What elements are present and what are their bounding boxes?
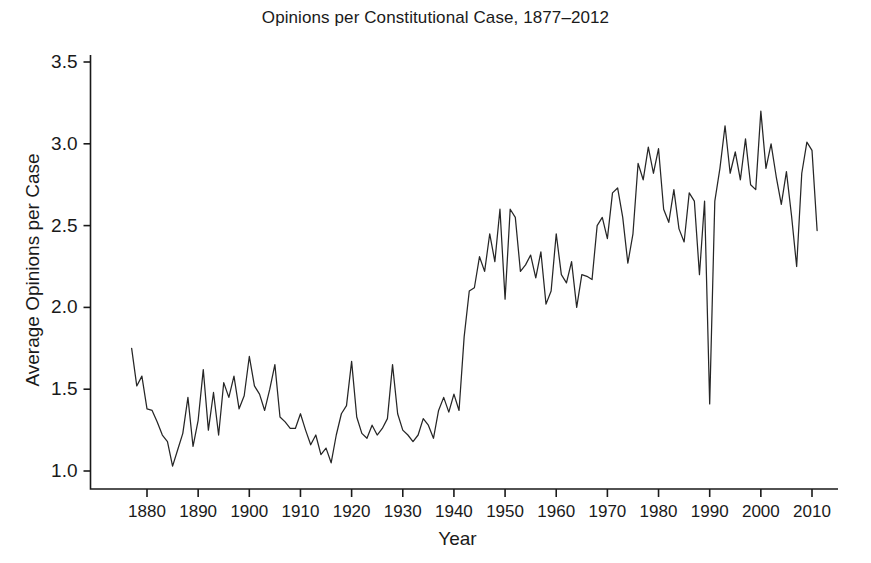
x-tick-label: 2000 <box>742 502 780 521</box>
y-tick-label: 2.0 <box>51 296 77 317</box>
x-tick-label: 1890 <box>179 502 217 521</box>
y-tick-label: 2.5 <box>51 215 77 236</box>
y-tick-label: 3.5 <box>51 51 77 72</box>
x-tick-label: 2010 <box>793 502 831 521</box>
x-tick-label: 1980 <box>640 502 678 521</box>
chart-figure: Opinions per Constitutional Case, 1877–2… <box>0 0 871 563</box>
x-tick-label: 1920 <box>333 502 371 521</box>
x-tick-label: 1880 <box>128 502 166 521</box>
x-tick-label: 1900 <box>230 502 268 521</box>
x-tick-label: 1940 <box>435 502 473 521</box>
x-tick-label: 1930 <box>384 502 422 521</box>
y-tick-label: 1.5 <box>51 378 77 399</box>
y-axis-ticks: 1.01.52.02.53.03.5 <box>51 51 90 481</box>
y-tick-label: 1.0 <box>51 460 77 481</box>
x-tick-label: 1970 <box>588 502 626 521</box>
x-tick-label: 1910 <box>282 502 320 521</box>
x-tick-label: 1960 <box>537 502 575 521</box>
data-series-group <box>132 111 817 466</box>
data-series-line <box>132 111 817 466</box>
x-axis-ticks: 1880189019001910192019301940195019601970… <box>128 489 831 521</box>
x-tick-label: 1950 <box>486 502 524 521</box>
plot-area: 1.01.52.02.53.03.5 188018901900191019201… <box>0 0 871 563</box>
axis-frame <box>91 55 839 489</box>
x-tick-label: 1990 <box>691 502 729 521</box>
y-tick-label: 3.0 <box>51 133 77 154</box>
